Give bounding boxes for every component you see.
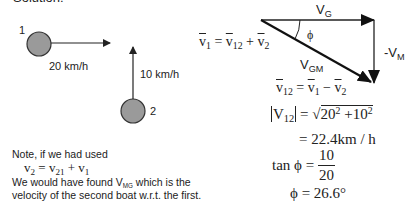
phi-label: ϕ <box>307 28 313 43</box>
equation-angle-result: ϕ = 26.6° <box>290 185 346 202</box>
equation-vector-sum: v1 = v12 + v2 <box>199 34 269 50</box>
boat-2-icon <box>121 99 145 123</box>
boat-2-speed-label: 10 km/h <box>140 68 179 80</box>
vgm-label: VGM <box>300 57 323 72</box>
angle-arc <box>295 20 300 39</box>
boat-1-label: 1 <box>19 24 25 36</box>
note-equation: v2 = v21 + v1 <box>24 160 89 176</box>
equation-relative-velocity: v12 = v1 − v2 <box>276 80 346 96</box>
note-line-1: Note, if we had used <box>12 148 108 160</box>
boat-1-icon <box>27 32 51 56</box>
boat-2-label: 2 <box>150 105 156 117</box>
neg-vm-label: -VM <box>384 45 405 60</box>
equation-tan-phi: tan ϕ = 1020 <box>272 146 335 185</box>
note-line-3: velocity of the second boat w.r.t. the f… <box>12 189 201 201</box>
note-line-2: We would have found VMG which is the <box>12 176 191 188</box>
vg-label: VG <box>316 2 332 17</box>
boat-1-speed-label: 20 km/h <box>49 60 88 72</box>
equation-magnitude: V12 = √202 +102 <box>271 106 373 123</box>
